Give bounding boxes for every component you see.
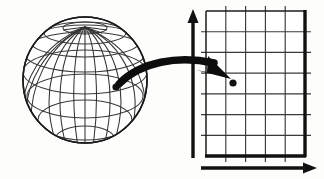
figure-container: Map projection from globe to planar grid (0, 0, 324, 179)
projection-diagram (0, 0, 324, 179)
planar-grid (201, 6, 311, 162)
grid-point (229, 79, 236, 86)
grid-background (206, 11, 305, 156)
